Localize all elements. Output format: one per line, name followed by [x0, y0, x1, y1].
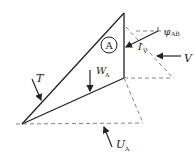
block-label: A: [105, 40, 114, 51]
label-W-sub: A: [104, 71, 110, 78]
label-V: V: [184, 52, 193, 65]
label-phi-sub: AB: [170, 30, 180, 37]
force-U-arrow: [104, 127, 112, 147]
label-phi: φ: [164, 27, 171, 37]
wedge-outline: [22, 13, 124, 124]
label-I-sub: V: [142, 47, 148, 54]
wedge-free-body-diagram: A T W A V U A I V φ AB: [0, 0, 194, 157]
label-T: T: [36, 72, 45, 85]
label-U-sub: A: [124, 145, 130, 152]
